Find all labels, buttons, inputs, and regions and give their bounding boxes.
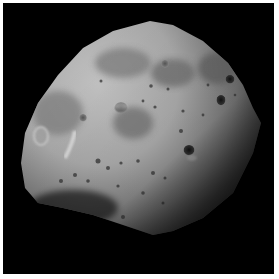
moon-body xyxy=(3,3,274,274)
photo-frame: Grayscale photograph of an irregular cra… xyxy=(3,3,274,274)
moon-photograph xyxy=(3,3,274,274)
